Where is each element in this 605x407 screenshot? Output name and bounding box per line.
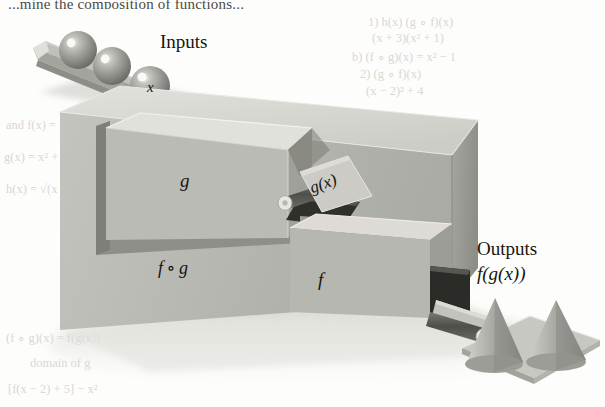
f-machine-box (290, 214, 452, 318)
output-value-label: f(g(x)) (477, 263, 526, 285)
figure-composition-machine: ...mine the composition of functions... … (0, 0, 605, 407)
machine-illustration (0, 0, 605, 407)
input-value-label: x (147, 79, 154, 96)
sphere-1 (59, 31, 97, 69)
sphere-2 (93, 47, 131, 85)
f-box-label: f (318, 269, 323, 291)
outputs-label: Outputs (477, 238, 537, 260)
composition-label: f ∘ g (158, 257, 188, 279)
g-box-label: g (180, 170, 190, 192)
inputs-label: Inputs (160, 31, 208, 53)
